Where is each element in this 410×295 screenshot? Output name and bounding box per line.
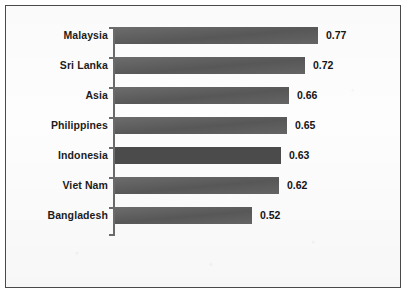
bar-row: Bangladesh 0.52 bbox=[6, 207, 400, 239]
bar-value-label: 0.65 bbox=[295, 119, 315, 131]
bar[interactable] bbox=[115, 87, 289, 104]
category-label: Viet Nam bbox=[16, 179, 108, 191]
bar[interactable] bbox=[115, 207, 252, 224]
bar-row: Philippines 0.65 bbox=[6, 117, 400, 149]
category-label: Bangladesh bbox=[16, 209, 108, 221]
bar-row: Indonesia 0.63 bbox=[6, 147, 400, 179]
bar[interactable] bbox=[115, 27, 318, 44]
bar-value-label: 0.66 bbox=[297, 89, 317, 101]
bar-row: Sri Lanka 0.72 bbox=[6, 57, 400, 89]
category-label: Asia bbox=[16, 89, 108, 101]
bar-value-label: 0.62 bbox=[287, 179, 307, 191]
bar-value-label: 0.72 bbox=[313, 59, 333, 71]
bar-value-label: 0.63 bbox=[289, 149, 309, 161]
category-label: Philippines bbox=[16, 119, 108, 131]
bar[interactable] bbox=[115, 147, 281, 164]
bar-row: Viet Nam 0.62 bbox=[6, 177, 400, 209]
bar[interactable] bbox=[115, 117, 287, 134]
category-label: Malaysia bbox=[16, 29, 108, 41]
bar[interactable] bbox=[115, 177, 279, 194]
bar-row: Malaysia 0.77 bbox=[6, 27, 400, 59]
category-label: Sri Lanka bbox=[16, 59, 108, 71]
bar[interactable] bbox=[115, 57, 305, 74]
bar-value-label: 0.77 bbox=[326, 29, 346, 41]
category-label: Indonesia bbox=[16, 149, 108, 161]
bar-row: Asia 0.66 bbox=[6, 87, 400, 119]
bar-value-label: 0.52 bbox=[260, 209, 280, 221]
chart-frame: Malaysia 0.77 Sri Lanka 0.72 Asia 0.66 P… bbox=[5, 5, 401, 288]
bar-chart-plot-area: Malaysia 0.77 Sri Lanka 0.72 Asia 0.66 P… bbox=[6, 6, 400, 287]
